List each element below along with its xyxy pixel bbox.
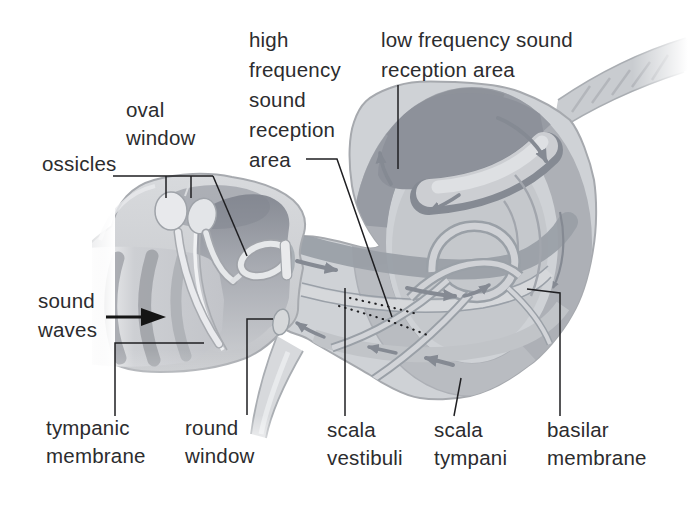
label-scala-tympani: scala tympani — [434, 416, 507, 472]
malleus-head — [155, 192, 187, 230]
stapes-footplate — [280, 240, 292, 280]
label-high-frequency-area: high frequency sound reception area — [249, 25, 341, 175]
label-basilar-membrane: basilar membrane — [547, 416, 647, 472]
label-low-frequency-area: low frequency sound reception area — [381, 25, 573, 85]
label-ossicles: ossicles — [42, 150, 117, 178]
label-round-window: round window — [185, 414, 255, 470]
label-sound-waves: sound waves — [38, 286, 97, 344]
label-scala-vestibuli: scala vestibuli — [327, 416, 403, 472]
ear-anatomy-figure: high frequency sound reception area low … — [0, 0, 688, 506]
label-tympanic-membrane: tympanic membrane — [46, 414, 146, 470]
label-oval-window: oval window — [126, 96, 196, 152]
